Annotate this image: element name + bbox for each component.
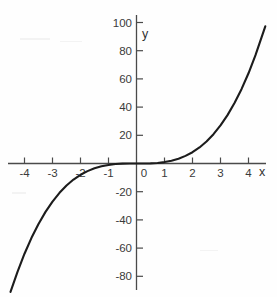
x-axis-label: x [259, 165, 266, 179]
x-tick-label-3: 3 [217, 167, 223, 179]
cubic-curve-line [11, 26, 266, 292]
x-tick-label-0: 0 [141, 167, 147, 179]
y-tick-label-40: 40 [119, 101, 132, 113]
y-tick-label-60: 60 [119, 73, 132, 85]
y-tick-labels: 100 80 60 40 20 -20 -40 -60 -80 [113, 17, 132, 283]
x-tick-label--1: -1 [103, 167, 113, 179]
y-tick-label--60: -60 [115, 242, 132, 254]
y-tick-label-80: 80 [119, 45, 132, 57]
x-tick-labels: -4 -3 -2 -1 0 1 2 3 4 [19, 167, 252, 179]
x-tick-label-2: 2 [189, 167, 195, 179]
plot-area: -4 -3 -2 -1 0 1 2 3 4 100 80 60 40 20 -2… [0, 0, 277, 297]
x-tick-label-4: 4 [245, 167, 252, 179]
x-tick-label-1: 1 [161, 167, 167, 179]
y-tick-label-100: 100 [113, 17, 132, 29]
x-tick-label--4: -4 [19, 167, 30, 179]
y-tick-label--40: -40 [115, 214, 132, 226]
y-axis-label: y [142, 27, 149, 41]
y-tick-label--80: -80 [115, 270, 132, 282]
y-axis-ticks [137, 23, 144, 277]
y-tick-label--20: -20 [115, 186, 132, 198]
y-tick-label-20: 20 [119, 129, 132, 141]
cubic-function-chart: -4 -3 -2 -1 0 1 2 3 4 100 80 60 40 20 -2… [0, 0, 277, 297]
x-tick-label--3: -3 [47, 167, 57, 179]
